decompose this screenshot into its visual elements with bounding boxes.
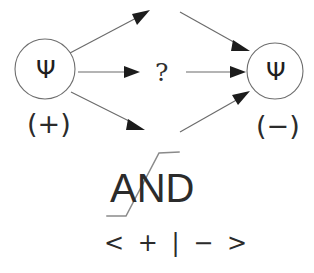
arrow-right-down-incoming (180, 91, 250, 132)
diagram-canvas: Ψ (+) Ψ (−) ? AND < + | − > (0, 0, 314, 273)
arrow-right-mid-incoming (186, 66, 246, 78)
right-state-psi-symbol: Ψ (266, 59, 286, 84)
and-label: AND (110, 168, 194, 208)
left-state-sign-label: (+) (27, 110, 71, 137)
center-question-mark: ? (155, 60, 168, 85)
arrow-left-up-outgoing (70, 10, 150, 53)
braket-notation-label: < + | − > (104, 231, 250, 255)
arrow-left-mid-outgoing (78, 66, 140, 78)
arrow-right-up-incoming (180, 12, 250, 51)
right-state-sign-label: (−) (256, 112, 300, 139)
left-state-psi-symbol: Ψ (36, 57, 56, 82)
arrow-left-down-outgoing (71, 92, 145, 130)
